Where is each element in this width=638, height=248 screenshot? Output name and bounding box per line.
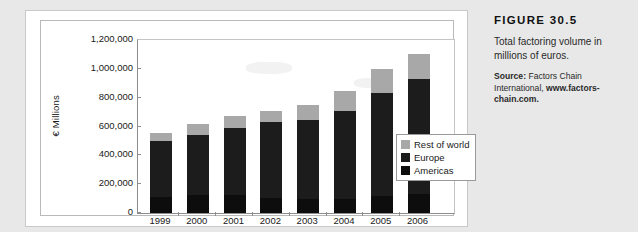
bar-segment-rest-of-world	[260, 111, 282, 123]
x-tick-label: 2006	[401, 215, 435, 226]
y-tick-mark	[137, 97, 141, 98]
legend-item: Europe	[401, 151, 469, 164]
bar-segment-rest-of-world	[187, 124, 209, 136]
x-tick-mark	[399, 212, 400, 216]
figure-page: € Millions 1,200,0001,000,000800,000600,…	[0, 0, 638, 248]
stacked-bar	[334, 91, 356, 213]
x-tick-label: 1999	[143, 215, 177, 226]
bar-segment-europe	[187, 135, 209, 195]
bar-segment-europe	[371, 93, 393, 195]
y-tick-label: 1,000,000	[69, 62, 133, 73]
bar-segment-europe	[297, 120, 319, 199]
y-tick-mark	[137, 126, 141, 127]
bar-segment-americas	[371, 196, 393, 213]
y-tick-label: 1,200,000	[69, 33, 133, 44]
y-tick-mark	[137, 183, 141, 184]
y-axis-tick-labels: 1,200,0001,000,000800,000600,000400,0002…	[65, 21, 133, 217]
x-tick-label: 2000	[180, 215, 214, 226]
bar-segment-americas	[297, 199, 319, 213]
bar-segment-rest-of-world	[297, 105, 319, 120]
y-tick-label: 600,000	[69, 120, 133, 131]
scan-artifact	[246, 62, 292, 74]
bar-segment-rest-of-world	[150, 133, 172, 141]
legend-swatch	[401, 166, 410, 175]
stacked-bar	[224, 116, 246, 213]
x-tick-label: 2003	[290, 215, 324, 226]
stacked-bar	[150, 133, 172, 213]
bar-segment-europe	[150, 141, 172, 197]
legend-item: Americas	[401, 164, 469, 177]
bar-segment-americas	[150, 197, 172, 213]
x-tick-mark	[178, 212, 179, 216]
y-tick-label: 400,000	[69, 148, 133, 159]
x-tick-label: 2004	[327, 215, 361, 226]
stacked-bar	[297, 105, 319, 213]
x-tick-label: 2005	[364, 215, 398, 226]
legend-item: Rest of world	[401, 138, 469, 151]
y-axis-title: € Millions	[50, 95, 64, 137]
bar-segment-americas	[260, 198, 282, 213]
chart-frame: € Millions 1,200,0001,000,000800,000600,…	[40, 20, 454, 216]
legend-label: Europe	[414, 152, 445, 163]
bar-segment-rest-of-world	[224, 116, 246, 128]
legend-label: Rest of world	[414, 139, 469, 150]
stacked-bar	[371, 69, 393, 213]
figure-caption: Total factoring volume in millions of eu…	[494, 35, 626, 63]
bar-segment-americas	[408, 194, 430, 213]
y-tick-label: 200,000	[69, 177, 133, 188]
y-tick-label: 800,000	[69, 91, 133, 102]
bar-segment-rest-of-world	[371, 69, 393, 94]
bar-segment-rest-of-world	[334, 91, 356, 110]
y-tick-label: 0	[69, 206, 133, 217]
x-tick-label: 2001	[217, 215, 251, 226]
plot-area: Rest of worldEuropeAmericas	[137, 39, 455, 214]
y-tick-mark	[137, 68, 141, 69]
chart-card: € Millions 1,200,0001,000,000800,000600,…	[26, 11, 467, 226]
x-tick-mark	[215, 212, 216, 216]
chart-legend: Rest of worldEuropeAmericas	[396, 134, 476, 181]
x-tick-mark	[252, 212, 253, 216]
y-tick-mark	[137, 154, 141, 155]
bar-segment-americas	[224, 195, 246, 213]
bar-segment-europe	[224, 128, 246, 195]
bar-segment-americas	[187, 195, 209, 213]
source-prefix: Source:	[494, 71, 526, 81]
figure-source: Source: Factors Chain International, www…	[494, 71, 626, 106]
stacked-bar	[260, 111, 282, 213]
figure-number: FIGURE 30.5	[494, 14, 626, 26]
stacked-bar	[187, 124, 209, 213]
x-tick-mark	[362, 212, 363, 216]
x-tick-mark	[289, 212, 290, 216]
bar-segment-americas	[334, 199, 356, 213]
bar-segment-rest-of-world	[408, 54, 430, 79]
y-tick-mark	[137, 212, 141, 213]
legend-swatch	[401, 153, 410, 162]
x-tick-label: 2002	[253, 215, 287, 226]
figure-caption-column: FIGURE 30.5 Total factoring volume in mi…	[494, 14, 626, 106]
bar-segment-europe	[260, 122, 282, 198]
bar-segment-europe	[334, 111, 356, 199]
x-tick-mark	[326, 212, 327, 216]
page-bottom-margin	[0, 232, 638, 248]
legend-swatch	[401, 140, 410, 149]
legend-label: Americas	[414, 165, 454, 176]
